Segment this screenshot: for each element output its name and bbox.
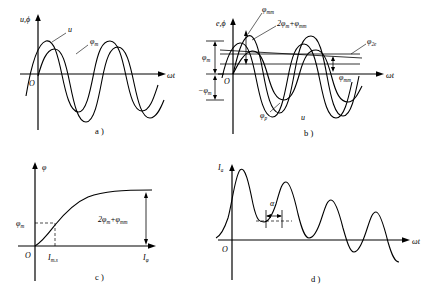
panel-d-origin-label: O (222, 245, 228, 254)
panel-b-negative-flux-marker: −φm (198, 86, 212, 96)
panel-b-x-axis-label: ωt (386, 71, 395, 80)
panel-d-current-curve (216, 169, 399, 262)
figure-container: u,ϕ ωt O u φm a ) (0, 0, 433, 292)
panel-b-negative-span-arrow-up (213, 75, 217, 80)
panel-c-x-tick-label: Im.s (47, 253, 58, 263)
panel-a-x-axis-label: ωt (167, 71, 176, 80)
panel-c-annotation-arrow-down (144, 239, 148, 245)
panel-a-u-leader (52, 33, 66, 42)
panel-b-origin-label: O (224, 77, 230, 86)
panel-a-voltage-curve-label: u (68, 25, 72, 34)
panel-a-origin-label: O (29, 79, 35, 88)
panel-b-residual-flux-label: φmm (262, 5, 274, 15)
panel-b: e,ϕ ωt O φm −φm φmm 2φm+φmm φ2e (200, 0, 433, 146)
panel-b-small-arrow-down (331, 67, 335, 72)
panel-c-saturation-curve (35, 190, 152, 246)
panel-b-caption: b ) (304, 128, 313, 138)
panel-d-caption: d ) (311, 274, 320, 284)
panel-c-y-tick-label: φm (16, 219, 24, 229)
panel-b-negative-span-arrow-down (213, 95, 217, 100)
panel-b-sum-leader (252, 26, 276, 40)
panel-b-y-axis-label: e,ϕ (216, 19, 226, 28)
panel-b-positive-span-arrow-up (213, 41, 217, 46)
panel-c-y-axis-label: φ (42, 163, 47, 172)
panel-b-peak-arrow-up (244, 30, 248, 36)
panel-d-y-axis-label: Ia (217, 163, 224, 173)
panel-d-alpha-arrow-left (266, 214, 271, 218)
panel-c-origin-label: O (25, 251, 31, 260)
panel-d-alpha-arrow-right (277, 214, 282, 218)
panel-a-x-arrow (158, 71, 166, 77)
panel-a-y-arrow (35, 14, 41, 21)
panel-c-annotation-label: 2φm+φmm (98, 215, 128, 225)
panel-a-phi-leader (76, 45, 88, 54)
panel-d-x-arrow (402, 237, 410, 243)
panel-c-x-arrow (148, 243, 156, 249)
panel-a-y-axis-label: u,ϕ (20, 15, 30, 24)
panel-d-y-arrow (229, 164, 235, 171)
panel-b-peak-flux-sum-label: 2φm+φmm (277, 19, 307, 29)
panel-c: φ Iφ O φm Im.s 2φm+φmm c ) (0, 146, 216, 292)
panel-b-phimm-leader (248, 13, 262, 34)
panel-c-x-axis-label: Iφ (142, 253, 149, 263)
panel-b-phi2e-leader (351, 44, 366, 54)
panel-a: u,ϕ ωt O u φm a ) (0, 0, 216, 146)
panel-b-positive-flux-marker: φm (202, 53, 210, 63)
panel-c-y-arrow (32, 162, 38, 169)
panel-c-caption: c ) (95, 272, 104, 282)
panel-c-annotation-arrow-up (144, 192, 148, 198)
panel-d: Ia ωt O α d ) (216, 146, 433, 292)
panel-a-caption: a ) (95, 126, 104, 136)
panel-b-x-arrow (376, 71, 384, 77)
panel-b-positive-span-arrow-down (213, 69, 217, 74)
panel-a-flux-curve-label: φm (90, 37, 98, 47)
panel-d-angle-label: α (270, 199, 275, 208)
panel-b-voltage-curve-label: u (301, 113, 305, 122)
panel-b-secondary-flux-label: φ2e (367, 37, 377, 47)
panel-d-x-axis-label: ωt (412, 237, 421, 246)
panel-b-y-arrow (230, 18, 236, 25)
